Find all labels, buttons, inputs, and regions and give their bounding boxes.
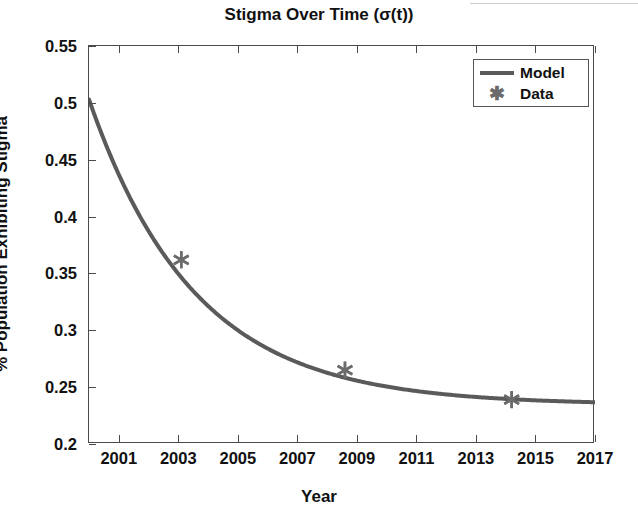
- x-tick-label: 2017: [577, 449, 614, 468]
- x-tick-label: 2005: [219, 449, 256, 468]
- y-tick-mark: [89, 273, 96, 274]
- y-tick-mark: [89, 330, 96, 331]
- y-tick-label: 0.4: [54, 207, 77, 226]
- chart-figure: Stigma Over Time (σ(t)) 0.20.250.30.350.…: [0, 0, 638, 519]
- x-tick-mark-top: [476, 46, 477, 53]
- asterisk-marker-icon: ✱: [474, 84, 520, 103]
- y-tick-label: 0.25: [45, 378, 77, 397]
- legend-item-data: ✱ Data: [474, 83, 588, 104]
- x-tick-mark: [119, 435, 120, 442]
- x-tick-mark: [476, 435, 477, 442]
- y-tick-mark: [89, 103, 96, 104]
- legend-label-model: Model: [520, 64, 565, 82]
- y-tick-mark: [89, 160, 96, 161]
- chart-title: Stigma Over Time (σ(t)): [0, 5, 638, 25]
- x-tick-mark-top: [595, 46, 596, 53]
- x-tick-mark-top: [178, 46, 179, 53]
- data-point-marker: [174, 251, 189, 268]
- model-line: [89, 99, 595, 402]
- x-tick-label: 2013: [458, 449, 495, 468]
- x-tick-mark-top: [416, 46, 417, 53]
- x-tick-mark: [535, 435, 536, 442]
- x-tick-mark-top: [119, 46, 120, 53]
- x-tick-label: 2007: [279, 449, 316, 468]
- x-tick-mark-top: [297, 46, 298, 53]
- x-tick-mark-top: [238, 46, 239, 53]
- x-tick-label: 2003: [160, 449, 197, 468]
- y-tick-label: 0.5: [54, 93, 77, 112]
- x-tick-mark: [595, 435, 596, 442]
- y-tick-label: 0.2: [54, 435, 77, 454]
- chart-legend: Model ✱ Data: [473, 59, 589, 107]
- data-markers: [174, 251, 519, 408]
- line-swatch-icon: [474, 71, 520, 75]
- y-tick-label: 0.3: [54, 321, 77, 340]
- y-tick-mark: [89, 217, 96, 218]
- x-tick-mark: [178, 435, 179, 442]
- x-tick-mark: [416, 435, 417, 442]
- x-tick-label: 2009: [339, 449, 376, 468]
- y-tick-mark: [89, 387, 96, 388]
- y-tick-mark: [89, 46, 96, 47]
- legend-label-data: Data: [520, 85, 554, 103]
- x-tick-mark-top: [535, 46, 536, 53]
- plot-area: 0.20.250.30.350.40.450.50.55 20012003200…: [88, 45, 594, 443]
- x-tick-mark-top: [357, 46, 358, 53]
- x-tick-label: 2015: [517, 449, 554, 468]
- x-tick-mark: [297, 435, 298, 442]
- x-tick-label: 2011: [399, 449, 435, 468]
- y-tick-label: 0.35: [45, 264, 77, 283]
- y-axis-title: % Population Exhibiting Stigma: [0, 116, 12, 372]
- legend-item-model: Model: [474, 62, 588, 83]
- x-axis-title: Year: [0, 487, 638, 507]
- y-tick-mark: [89, 444, 96, 445]
- y-tick-label: 0.45: [45, 150, 77, 169]
- x-tick-mark: [357, 435, 358, 442]
- x-tick-label: 2001: [100, 449, 137, 468]
- model-curve: [89, 99, 595, 402]
- y-tick-label: 0.55: [45, 37, 77, 56]
- x-tick-mark: [238, 435, 239, 442]
- scan-artifact-line: [470, 3, 638, 4]
